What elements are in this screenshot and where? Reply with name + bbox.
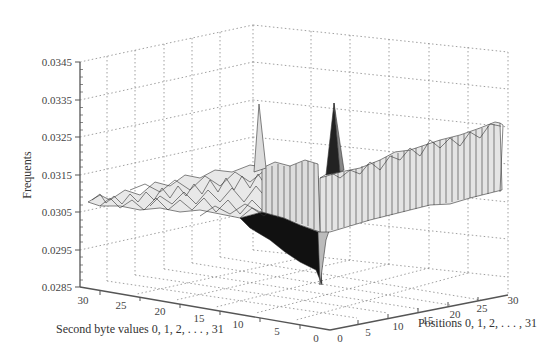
y-tick-label: 20 [155,305,167,317]
y-tick-label: 30 [78,294,90,306]
x-tick-label: 5 [365,326,371,338]
y-tick-label: 25 [116,299,128,311]
x-axis-title: Positions 0, 1, 2, . . . , 31 [418,316,537,330]
x-tick-label: 0 [337,332,343,344]
z-tick-label: 0.0295 [42,244,73,256]
y-tick-label: 5 [274,325,280,337]
z-axis: 0.0345 0.0335 0.0325 0.0315 0.0305 0.029… [20,56,83,293]
y-tick-label: 10 [233,318,245,330]
y-axis-title: Second byte values 0, 1, 2, . . . , 31 [56,322,224,336]
z-tick-label: 0.0315 [42,169,73,181]
x-tick-label: 25 [477,302,489,314]
z-tick-label: 0.0335 [42,94,73,106]
z-tick-label: 0.0285 [42,281,73,293]
surface-ridge [320,122,503,232]
x-tick-label: 30 [508,294,520,306]
y-tick-label: 0 [313,332,319,344]
z-tick-label: 0.0345 [42,56,73,68]
z-tick-label: 0.0325 [42,131,73,143]
back-left-wall-grid [80,25,253,281]
spike-1 [254,104,266,172]
x-tick-label: 10 [393,320,405,332]
surface-chart: 0.0345 0.0335 0.0325 0.0315 0.0305 0.029… [0,0,557,354]
z-tick-label: 0.0305 [42,206,73,218]
y-axis: 30 25 20 15 10 5 0 Second byte values 0,… [56,287,330,344]
x-axis: 0 5 10 15 20 25 30 Positions 0, 1, 2, . … [330,294,537,344]
z-axis-title: Frequents [20,151,34,199]
